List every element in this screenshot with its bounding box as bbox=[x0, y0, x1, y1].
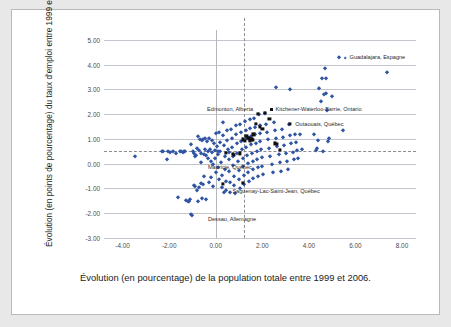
square-marker-icon bbox=[270, 108, 273, 111]
data-point bbox=[277, 152, 281, 156]
scatter-plot-area: 5.004.003.002.001.000.00-1.00-2.00-3.00-… bbox=[104, 30, 416, 238]
data-point bbox=[243, 119, 247, 123]
data-point bbox=[230, 145, 234, 149]
data-point bbox=[134, 154, 138, 158]
data-point bbox=[196, 199, 200, 203]
data-point bbox=[330, 94, 334, 98]
data-point bbox=[226, 138, 230, 142]
data-point bbox=[221, 133, 225, 137]
data-point bbox=[254, 122, 257, 125]
y-gridline bbox=[104, 213, 416, 214]
data-point bbox=[323, 66, 327, 70]
y-axis-tick-label: -1.00 bbox=[85, 185, 100, 192]
data-point bbox=[205, 197, 209, 201]
y-axis-tick-label: 2.00 bbox=[88, 111, 100, 118]
data-point bbox=[244, 128, 248, 132]
data-point bbox=[385, 70, 389, 74]
data-point bbox=[217, 130, 221, 134]
y-axis-tick-label: 4.00 bbox=[88, 61, 100, 68]
data-point bbox=[253, 125, 257, 129]
data-point bbox=[248, 126, 252, 130]
point-annotation-label: Dessau, Allemagne bbox=[208, 216, 256, 222]
figure-card: Évolution (en points de pourcentage) du … bbox=[11, 9, 440, 315]
point-annotation-label: Mauricie, Québec bbox=[208, 164, 252, 170]
data-point bbox=[176, 195, 180, 199]
data-point bbox=[245, 153, 249, 157]
data-point bbox=[285, 159, 289, 163]
data-point bbox=[271, 171, 275, 175]
data-point bbox=[229, 127, 233, 131]
data-point bbox=[297, 156, 301, 160]
data-point bbox=[201, 182, 205, 186]
data-point bbox=[256, 174, 260, 178]
data-point bbox=[222, 190, 226, 194]
data-point bbox=[272, 120, 276, 124]
data-point bbox=[242, 138, 245, 141]
data-point bbox=[278, 149, 281, 152]
data-point bbox=[280, 127, 284, 131]
data-point bbox=[245, 145, 249, 149]
data-point bbox=[252, 176, 256, 180]
data-point bbox=[275, 142, 278, 145]
data-point bbox=[298, 133, 302, 137]
data-point bbox=[245, 134, 248, 137]
y-axis-title-text: Évolution (en points de pourcentage) du … bbox=[44, 21, 56, 247]
data-point bbox=[189, 143, 193, 147]
data-point bbox=[236, 159, 240, 163]
data-point bbox=[264, 111, 267, 114]
data-point bbox=[215, 144, 219, 148]
data-point bbox=[312, 132, 316, 136]
x-axis-tick-label: 0.00 bbox=[210, 242, 222, 249]
data-point bbox=[259, 147, 263, 151]
point-annotation-label: Outaouais, Québec bbox=[295, 121, 343, 127]
data-point bbox=[239, 152, 242, 155]
data-point bbox=[260, 155, 264, 159]
y-axis-tick-label: 0.00 bbox=[88, 160, 100, 167]
annotation-text: Saguenay-Lac-Saint-Jean, Québec bbox=[232, 188, 319, 194]
data-point bbox=[274, 85, 278, 89]
data-point bbox=[220, 173, 224, 177]
data-point bbox=[242, 173, 246, 177]
data-point bbox=[222, 143, 226, 147]
data-point bbox=[252, 133, 255, 136]
data-point bbox=[235, 142, 239, 146]
data-point bbox=[279, 169, 283, 173]
y-gridline bbox=[104, 238, 416, 239]
data-point bbox=[233, 183, 237, 187]
data-point bbox=[165, 157, 169, 161]
annotation-text: Kitchener-Waterloo-Barrie, Ontario bbox=[276, 106, 362, 112]
x-axis-tick-label: 2.00 bbox=[256, 242, 268, 249]
data-point bbox=[325, 76, 329, 80]
data-point bbox=[207, 180, 211, 184]
data-point bbox=[283, 143, 287, 147]
data-point bbox=[262, 172, 266, 176]
data-point bbox=[221, 120, 225, 124]
x-axis-caption: Évolution (en pourcentage) de la populat… bbox=[12, 272, 439, 283]
data-point bbox=[300, 147, 304, 151]
data-point bbox=[269, 154, 273, 158]
data-point bbox=[284, 151, 288, 155]
data-point bbox=[273, 128, 277, 132]
data-point bbox=[200, 196, 204, 200]
data-point bbox=[290, 142, 294, 146]
data-point bbox=[237, 177, 241, 181]
data-point bbox=[294, 140, 298, 144]
diamond-marker-icon bbox=[344, 56, 347, 59]
horizontal-reference-line bbox=[104, 151, 416, 152]
data-point bbox=[214, 171, 218, 175]
data-point bbox=[252, 116, 256, 120]
data-point bbox=[209, 175, 213, 179]
data-point bbox=[286, 167, 290, 171]
data-point bbox=[288, 133, 292, 137]
data-point bbox=[218, 140, 222, 144]
data-point bbox=[289, 122, 292, 125]
data-point bbox=[256, 166, 260, 170]
data-point bbox=[238, 122, 242, 126]
data-point bbox=[227, 169, 231, 173]
data-point bbox=[257, 113, 260, 116]
annotation-text: Outaouais, Québec bbox=[295, 121, 343, 127]
data-point bbox=[194, 153, 198, 157]
data-point bbox=[248, 117, 252, 121]
data-point bbox=[258, 131, 262, 135]
y-axis-tick-label: -3.00 bbox=[85, 235, 100, 242]
